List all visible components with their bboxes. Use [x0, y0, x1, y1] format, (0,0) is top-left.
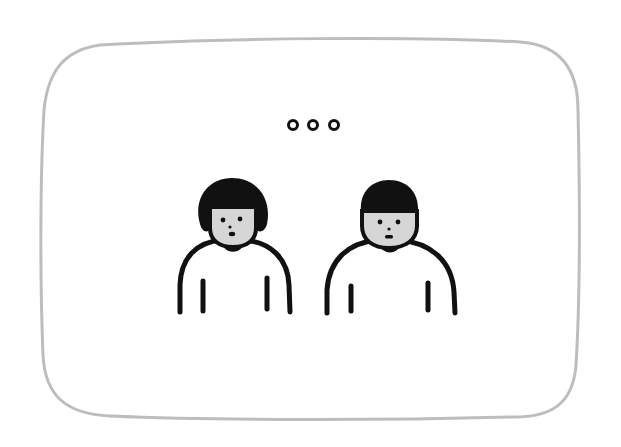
right-person	[327, 180, 455, 313]
left-person-nose	[228, 225, 231, 228]
left-person-eye-left	[221, 218, 226, 223]
right-person-mouth	[385, 235, 393, 239]
illustration-scene	[0, 0, 621, 447]
left-person-eye-right	[238, 217, 243, 222]
ellipsis-icon	[289, 121, 339, 130]
right-person-eye-right	[396, 220, 401, 225]
left-person	[180, 178, 290, 312]
right-person-hair	[361, 180, 418, 212]
rounded-frame	[41, 38, 579, 419]
left-person-mouth	[229, 232, 235, 236]
right-person-eye-left	[378, 220, 383, 225]
right-person-nose	[387, 227, 390, 230]
left-person-face	[210, 207, 256, 247]
